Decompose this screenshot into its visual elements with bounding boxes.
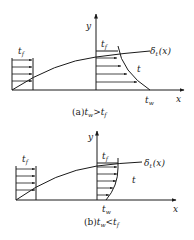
boundary-layer-label: δt(x)	[150, 46, 171, 57]
thermal-boundary-layer-diagram: y x tf δt(x) tf t tw (a)tw>tf	[0, 0, 194, 240]
x-axis-label: x	[173, 204, 178, 214]
profile-temp-label: t	[137, 64, 141, 74]
freestream-velocity-profile	[16, 166, 36, 200]
boundary-layer-curve	[16, 162, 142, 200]
profile-temp-label: t	[132, 175, 136, 185]
profile-top-temp-label: tf	[101, 39, 109, 51]
temperature-profile	[96, 46, 150, 90]
y-axis-label: y	[85, 21, 92, 31]
wall-temp-label: tw	[102, 204, 112, 215]
profile-top-temp-label: tf	[102, 151, 110, 163]
freestream-velocity-profile	[12, 58, 33, 90]
y-axis-label: y	[87, 132, 94, 142]
x-axis-label: x	[176, 94, 181, 104]
freestream-temp-label: tf	[18, 46, 26, 58]
panel-b: y x tf δt(x) tf t tw (b)tw<tf	[16, 131, 178, 229]
caption-b: (b)tw<tf	[84, 217, 121, 229]
wall-temp-label: tw	[145, 95, 155, 106]
boundary-layer-label: δt(x)	[144, 158, 165, 169]
freestream-temp-label: tf	[22, 154, 30, 166]
panel-a: y x tf δt(x) tf t tw (a)tw>tf	[12, 14, 184, 119]
caption-a: (a)tw>tf	[72, 107, 108, 119]
